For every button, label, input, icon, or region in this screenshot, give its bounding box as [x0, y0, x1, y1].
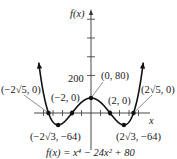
function-equation: f(x) = x⁴ − 24x² + 80	[46, 147, 135, 159]
y-tick-label-200: 200	[68, 73, 84, 84]
point-label-2root3: (2√3, −64)	[116, 131, 161, 143]
key-point-marker	[89, 96, 93, 100]
key-point-marker	[56, 123, 60, 127]
y-axis-label: f(x)	[70, 8, 85, 20]
leader-line	[91, 82, 103, 98]
key-point-marker	[122, 123, 126, 127]
point-label-2root5: (2√5, 0)	[141, 84, 175, 96]
axes	[34, 9, 150, 150]
key-point-marker	[131, 111, 135, 115]
key-point-marker	[70, 111, 74, 115]
point-label-0-80: (0, 80)	[101, 70, 129, 82]
point-label-2: (2, 0)	[108, 95, 131, 107]
y-axis-arrow-icon	[89, 9, 93, 15]
x-axis-label: x	[148, 115, 154, 126]
function-graph: f(x) x 200 (−2√5, 0) (−2, 0) (0, 80) (2,…	[0, 0, 177, 159]
key-point-marker	[108, 111, 112, 115]
point-label-neg-2root5: (−2√5, 0)	[1, 84, 41, 96]
point-label-neg-2: (−2, 0)	[51, 92, 80, 104]
key-point-marker	[46, 111, 50, 115]
point-label-neg-2root3: (−2√3, −64)	[30, 131, 81, 143]
